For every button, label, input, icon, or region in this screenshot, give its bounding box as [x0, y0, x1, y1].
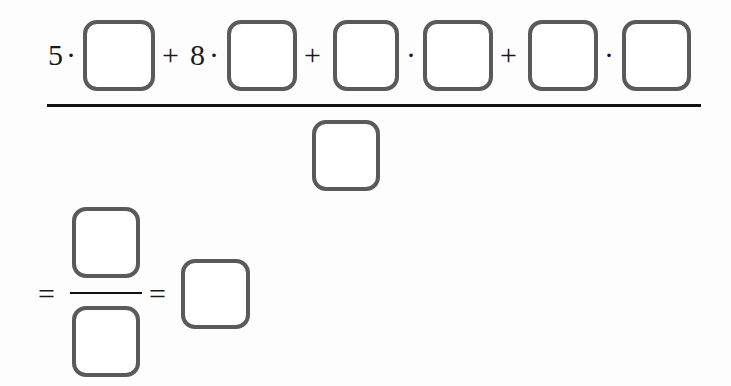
multiply-sign: ·: [604, 40, 614, 70]
answer-box-4[interactable]: [423, 20, 493, 91]
multiply-sign: ·: [209, 40, 219, 70]
answer-box-1[interactable]: [83, 20, 155, 91]
fraction-bar: [47, 104, 701, 107]
multiply-sign: ·: [406, 40, 416, 70]
answer-box-2[interactable]: [227, 20, 297, 91]
coefficient-8: 8: [190, 40, 205, 70]
small-fraction-bar: [70, 292, 142, 294]
answer-box-3[interactable]: [333, 20, 399, 91]
denominator-box[interactable]: [312, 120, 380, 191]
answer-box-6[interactable]: [622, 20, 691, 91]
equals-sign: =: [149, 279, 166, 309]
fraction-numerator-box[interactable]: [72, 207, 140, 278]
plus-sign: +: [500, 40, 517, 70]
plus-sign: +: [304, 40, 321, 70]
fraction-denominator-box[interactable]: [72, 306, 140, 377]
plus-sign: +: [162, 40, 179, 70]
equals-sign: =: [38, 279, 55, 309]
coefficient-5: 5: [48, 40, 63, 70]
final-answer-box[interactable]: [181, 259, 250, 329]
multiply-sign: ·: [66, 40, 76, 70]
answer-box-5[interactable]: [528, 20, 598, 91]
